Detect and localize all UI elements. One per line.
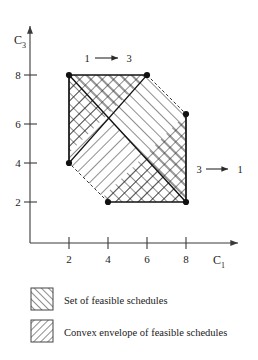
legend-swatch-cross-hatch (31, 288, 53, 310)
vertex-point (66, 72, 72, 78)
y-tick-label: 6 (15, 118, 21, 130)
y-axis-label-subscript: 3 (22, 41, 26, 50)
region-fills (60, 65, 200, 215)
figure-root: 2 4 6 8 2 4 6 8 C 3 C 1 1 3 3 (0, 0, 258, 360)
x-tick-label: 2 (66, 253, 72, 265)
legend-swatch-diagonal-hatch (31, 320, 53, 342)
y-tick-label: 4 (15, 157, 21, 169)
x-tick-label: 4 (105, 253, 111, 265)
x-tick-label: 8 (183, 253, 189, 265)
y-axis-label-text: C (14, 33, 22, 47)
legend: Set of feasible schedules Convex envelop… (31, 288, 227, 342)
vertex-point (183, 199, 189, 205)
feasible-schedules-figure: 2 4 6 8 2 4 6 8 C 3 C 1 1 3 3 (0, 0, 258, 360)
y-tick-label: 2 (15, 196, 21, 208)
vertex-point (183, 111, 189, 117)
annotation-three-to-one: 3 1 (196, 164, 242, 175)
legend-label: Convex envelope of feasible schedules (64, 327, 227, 338)
y-axis-label: C 3 (14, 33, 26, 50)
x-tick-label: 6 (144, 253, 150, 265)
annotation-to-label: 3 (126, 53, 131, 64)
vertex-point (105, 199, 111, 205)
x-axis-label: C 1 (213, 253, 225, 270)
vertex-point (144, 72, 150, 78)
annotation-from-label: 3 (196, 164, 201, 175)
legend-item-feasible-set: Set of feasible schedules (31, 288, 168, 310)
annotation-to-label: 1 (237, 164, 242, 175)
x-axis-label-subscript: 1 (221, 261, 225, 270)
legend-label: Set of feasible schedules (64, 295, 168, 306)
vertex-point (66, 160, 72, 166)
y-tick-label: 8 (15, 69, 21, 81)
annotation-from-label: 1 (84, 53, 89, 64)
x-axis-label-text: C (213, 253, 221, 267)
annotation-one-to-three: 1 3 (84, 53, 131, 64)
legend-item-convex-envelope: Convex envelope of feasible schedules (31, 320, 227, 342)
